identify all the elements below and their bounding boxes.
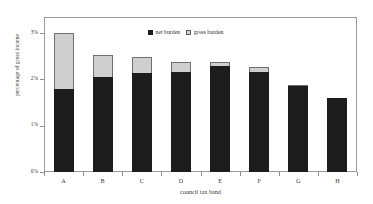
- bar-C: [132, 57, 152, 172]
- bar-segment-net-A: [54, 89, 74, 172]
- bar-segment-gross-B: [93, 55, 113, 77]
- x-tick-line: [357, 172, 358, 176]
- bar-G: [288, 85, 308, 172]
- bar-segment-net-F: [249, 72, 269, 172]
- legend-swatch-net-icon: [148, 30, 153, 35]
- x-tick-label-C: C: [127, 177, 157, 184]
- y-tick-label: 2%: [31, 75, 38, 81]
- x-tick-line: [279, 172, 280, 176]
- legend-label-gross: gross burden: [194, 29, 224, 35]
- bar-segment-gross-A: [54, 33, 74, 89]
- y-axis-title: percentage of gross income: [14, 10, 20, 120]
- y-tick-mark: [40, 79, 44, 80]
- y-tick-mark: [40, 126, 44, 127]
- x-tick-label-E: E: [205, 177, 235, 184]
- bar-segment-net-G: [288, 86, 308, 172]
- chart-figure: percentage of gross income 3%2%1%0% ABCD…: [0, 0, 373, 204]
- x-tick-line: [201, 172, 202, 176]
- bar-segment-net-D: [171, 72, 191, 172]
- x-tick-label-F: F: [244, 177, 274, 184]
- x-tick-line: [318, 172, 319, 176]
- x-tick-line: [122, 172, 123, 176]
- bar-F: [249, 67, 269, 172]
- legend-swatch-gross-icon: [186, 30, 191, 35]
- bar-segment-gross-C: [132, 57, 152, 72]
- y-tick-label: 3%: [31, 29, 38, 35]
- x-tick-label-A: A: [49, 177, 79, 184]
- bar-segment-net-C: [132, 73, 152, 172]
- x-tick-label-H: H: [322, 177, 352, 184]
- y-tick-label: 0%: [31, 168, 38, 174]
- plot-area: [44, 17, 357, 172]
- bar-segment-gross-D: [171, 62, 191, 71]
- legend-entry-net: net burden: [148, 29, 180, 35]
- bar-B: [93, 55, 113, 172]
- bar-segment-net-H: [327, 98, 347, 172]
- bar-D: [171, 62, 191, 172]
- x-tick-label-B: B: [88, 177, 118, 184]
- x-tick-line: [161, 172, 162, 176]
- bar-H: [327, 98, 347, 172]
- x-tick-line: [83, 172, 84, 176]
- x-tick-line: [44, 172, 45, 176]
- chart-legend: net burden gross burden: [148, 29, 223, 35]
- x-tick-label-G: G: [283, 177, 313, 184]
- legend-entry-gross: gross burden: [186, 29, 223, 35]
- x-axis-title: council tax band: [44, 188, 357, 195]
- x-tick-label-D: D: [166, 177, 196, 184]
- bar-E: [210, 62, 230, 172]
- bar-A: [54, 33, 74, 172]
- bar-segment-net-B: [93, 77, 113, 172]
- y-tick-mark: [40, 33, 44, 34]
- x-tick-line: [240, 172, 241, 176]
- y-tick-label: 1%: [31, 121, 38, 127]
- legend-label-net: net burden: [156, 29, 181, 35]
- bar-segment-net-E: [210, 66, 230, 171]
